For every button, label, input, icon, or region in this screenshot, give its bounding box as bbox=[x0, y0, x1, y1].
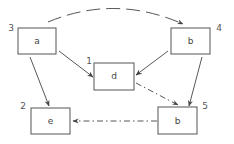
node-a: a 3 bbox=[8, 23, 56, 55]
node-e-label: e bbox=[48, 116, 54, 126]
edge-n4-to-n5 bbox=[189, 57, 202, 106]
edge-n4-to-n1 bbox=[136, 51, 168, 75]
node-d: d 1 bbox=[86, 56, 134, 91]
node-b-top-number: 4 bbox=[216, 23, 222, 33]
graph-diagram: a 3 b 4 d 1 e 2 b 5 bbox=[0, 0, 234, 144]
edge-n1-to-n5 bbox=[136, 83, 178, 105]
node-e-number: 2 bbox=[20, 101, 26, 111]
node-b-top: b 4 bbox=[171, 23, 222, 55]
node-b-bottom: b 5 bbox=[158, 101, 208, 135]
node-d-number: 1 bbox=[86, 56, 92, 66]
node-b-top-label: b bbox=[188, 36, 194, 46]
node-d-label: d bbox=[111, 71, 117, 81]
edge-n3-to-n2 bbox=[30, 57, 49, 106]
node-e: e 2 bbox=[20, 101, 70, 135]
node-b-bottom-number: 5 bbox=[202, 101, 208, 111]
node-a-label: a bbox=[34, 36, 40, 46]
node-a-number: 3 bbox=[8, 23, 14, 33]
edge-n3-to-n4 bbox=[48, 8, 183, 24]
node-b-bottom-label: b bbox=[175, 116, 181, 126]
